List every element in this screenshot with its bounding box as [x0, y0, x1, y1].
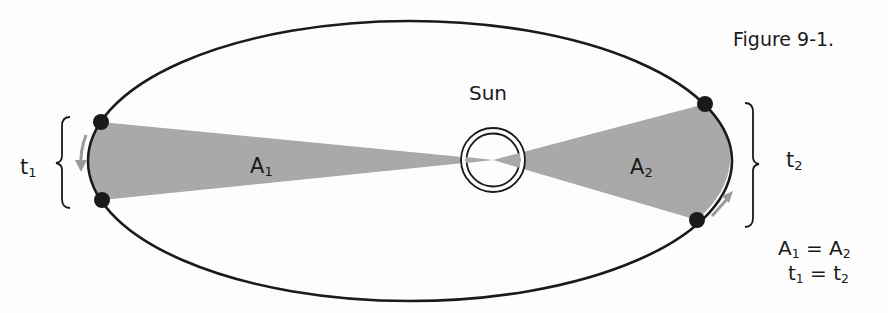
area-a2-sub: 2 [644, 165, 652, 180]
figure-caption: Figure 9-1. [733, 30, 834, 49]
area-a2-base: A [630, 155, 644, 179]
area-a1-sector [89, 122, 493, 200]
area-a2-label: A2 [630, 157, 653, 179]
time-t2-label: t2 [786, 150, 803, 172]
eq1-rhs-sub: 2 [843, 246, 851, 261]
area-a1-base: A [250, 154, 264, 178]
eq1-lhs-sub: 1 [792, 246, 800, 261]
planet-dot-right-top [697, 96, 713, 112]
area-a1-label: A1 [250, 156, 273, 178]
time-t1-base: t [20, 155, 28, 179]
planet-dot-left-top [93, 114, 109, 130]
eq2-rhs-sub: 2 [841, 271, 849, 286]
area-a2-sector [493, 104, 730, 220]
equation-times-equal: t1 = t2 [788, 263, 849, 286]
planet-dot-right-bottom [689, 212, 705, 228]
motion-arrow-left-icon [75, 135, 87, 172]
time-t2-base: t [786, 148, 794, 172]
eq2-lhs: t [788, 261, 796, 285]
sun-label: Sun [469, 83, 507, 103]
eq1-rhs: A [829, 236, 843, 260]
eq2-lhs-sub: 1 [796, 271, 804, 286]
brace-t1-icon [56, 117, 70, 208]
equation-areas-equal: A1 = A2 [778, 238, 851, 261]
brace-t2-icon [745, 103, 759, 227]
eq2-rhs: t [833, 261, 841, 285]
planet-dot-left-bottom [94, 192, 110, 208]
time-t1-label: t1 [20, 157, 37, 179]
area-a1-sub: 1 [264, 164, 272, 179]
eq2-op: = [804, 261, 833, 285]
time-t1-sub: 1 [28, 165, 36, 180]
kepler-diagram: Figure 9-1. Sun A1 A2 t1 t2 A1 = A2 t1 =… [0, 0, 888, 313]
time-t2-sub: 2 [794, 158, 802, 173]
eq1-lhs: A [778, 236, 792, 260]
eq1-op: = [800, 236, 829, 260]
